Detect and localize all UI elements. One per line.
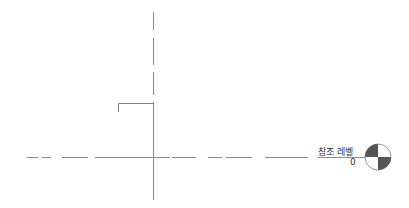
drawing-canvas[interactable]: 참조 레벨 0 [0,0,409,208]
drawing-lines [0,0,409,208]
level-head-marker [365,144,391,170]
wall-bracket [119,104,154,113]
level-name-label[interactable]: 참조 레벨 [318,145,353,158]
level-elevation-value[interactable]: 0 [350,157,356,167]
